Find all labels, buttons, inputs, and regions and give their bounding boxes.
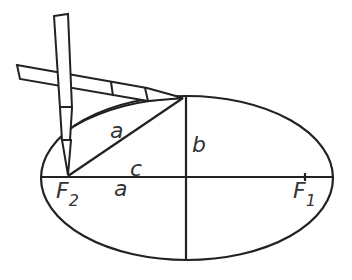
ellipse-diagram: a b c a F2 F1 [0,0,352,280]
pencil-horizontal-icon [17,65,183,101]
label-b: b [192,132,206,157]
label-a-upper: a [110,118,123,143]
label-c: c [130,156,142,181]
pencil-vertical-icon [54,14,72,175]
label-focus-f2: F2 [56,178,79,210]
string-segment-a [68,98,183,176]
label-focus-f1: F1 [293,178,316,210]
label-a-lower: a [114,176,127,201]
